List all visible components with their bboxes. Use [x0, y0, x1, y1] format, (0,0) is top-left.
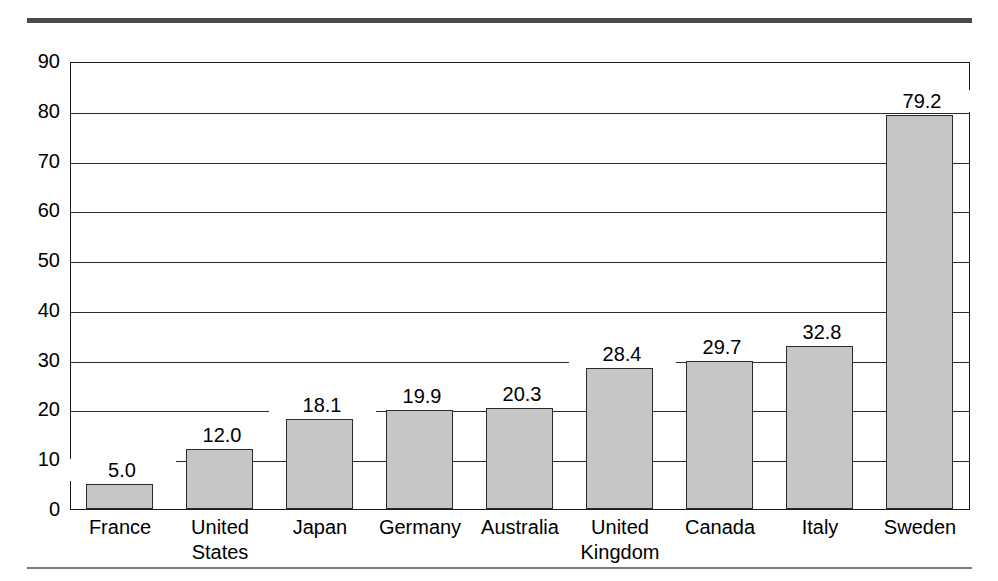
y-tick-label-10: 10: [12, 449, 60, 469]
bar-value-label: 32.8: [769, 321, 876, 343]
y-tick-label-90: 90: [12, 51, 60, 71]
y-tick-label-30: 30: [12, 350, 60, 370]
bar-value-label: 19.9: [369, 385, 476, 407]
x-axis-label: Sweden: [860, 515, 980, 540]
y-tick-label-60: 60: [12, 200, 60, 220]
x-axis-category-labels: FranceUnited StatesJapanGermanyAustralia…: [70, 515, 970, 575]
y-tick-label-20: 20: [12, 399, 60, 419]
y-tick-label-0: 0: [12, 499, 60, 519]
bar-value-label: 79.2: [869, 90, 976, 112]
y-tick-label-80: 80: [12, 101, 60, 121]
bar-value-label: 20.3: [469, 383, 576, 405]
bar-value-label: 12.0: [169, 424, 276, 446]
y-tick-label-70: 70: [12, 151, 60, 171]
bar-chart-figure: 0102030405060708090 5.012.018.119.920.32…: [0, 0, 998, 581]
bar-value-label: 18.1: [269, 394, 376, 416]
top-horizontal-rule: [27, 18, 972, 23]
bar-value-labels: 5.012.018.119.920.328.429.732.879.2: [70, 62, 970, 510]
bar-value-label: 5.0: [69, 459, 176, 481]
bottom-horizontal-rule: [27, 567, 972, 569]
y-tick-label-40: 40: [12, 300, 60, 320]
bar-value-label: 29.7: [669, 336, 776, 358]
y-tick-label-50: 50: [12, 250, 60, 270]
bar-value-label: 28.4: [569, 343, 676, 365]
